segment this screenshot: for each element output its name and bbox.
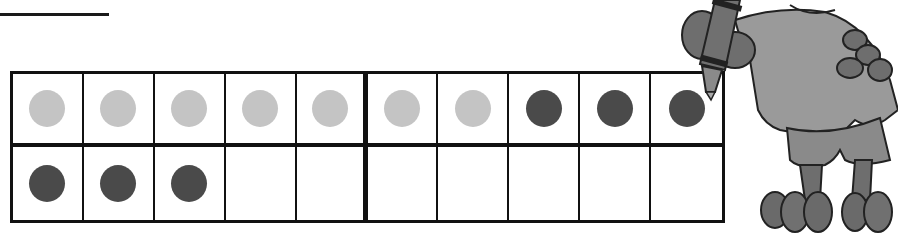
ten-frame-cell [297,147,368,220]
ten-frame-cell [368,147,439,220]
ten-frame-cell [297,74,368,147]
ten-frame-cell [226,74,297,147]
ten-frame-cell [155,147,226,220]
ten-frame-cell [84,147,155,220]
dark-counter-icon [29,165,65,202]
light-counter-icon [100,90,136,127]
ten-frame-cell [438,147,509,220]
ten-frame-cell [13,74,84,147]
ten-frame-cell [226,147,297,220]
dark-counter-icon [526,90,562,127]
double-ten-frame [10,71,725,223]
light-counter-icon [384,90,420,127]
ten-frame-cell [155,74,226,147]
light-counter-icon [171,90,207,127]
light-counter-icon [242,90,278,127]
answer-blank-line [0,13,109,16]
light-counter-icon [312,90,348,127]
ten-frame-cell [368,74,439,147]
light-counter-icon [455,90,491,127]
dark-counter-icon [597,90,633,127]
dark-counter-icon [171,165,207,202]
ten-frame-cell [509,74,580,147]
cartoon-character-with-marker-icon [640,0,898,237]
light-counter-icon [29,90,65,127]
ten-frame-cell [84,74,155,147]
dark-counter-icon [100,165,136,202]
ten-frame-cell [438,74,509,147]
ten-frame-cell [509,147,580,220]
ten-frame-cell [13,147,84,220]
